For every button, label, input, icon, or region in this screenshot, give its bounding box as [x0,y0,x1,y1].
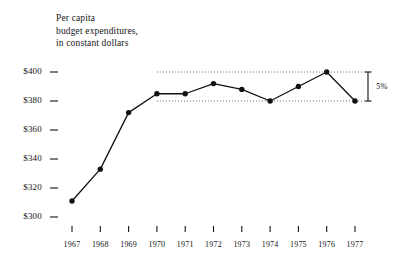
y-axis-tick-marks [50,72,58,217]
data-point [324,69,329,74]
data-point [126,110,131,115]
data-point [239,87,244,92]
data-point [211,81,216,86]
series-data-points [69,69,357,203]
series-polyline [72,72,355,201]
data-point [296,84,301,89]
plot-area [0,0,410,268]
data-point [154,91,159,96]
range-bracket-label: 5% [376,81,388,91]
data-point [69,198,74,203]
y-tick-label: $300 [2,211,42,221]
data-point [352,98,357,103]
data-point [267,98,272,103]
x-tick-label: 1977 [335,240,375,249]
x-axis-tick-marks [72,226,355,232]
y-tick-label: $320 [2,182,42,192]
data-point [183,91,188,96]
y-tick-label: $360 [2,124,42,134]
y-tick-label: $380 [2,95,42,105]
y-tick-label: $400 [2,66,42,76]
series-line [72,72,355,201]
y-tick-label: $340 [2,153,42,163]
data-point [98,166,103,171]
range-bracket-icon [365,72,372,101]
chart-canvas: Per capita budget expenditures, in const… [0,0,410,268]
